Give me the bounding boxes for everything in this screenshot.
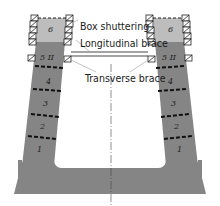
svg-text:4: 4 xyxy=(45,77,51,86)
svg-text:3: 3 xyxy=(171,99,176,108)
svg-text:5 II: 5 II xyxy=(40,53,55,62)
svg-text:5 II: 5 II xyxy=(162,53,177,62)
svg-text:6: 6 xyxy=(168,25,173,34)
label-longitudinal-brace: Longitudinal brace xyxy=(80,37,168,49)
label-transverse-brace: Transverse brace xyxy=(84,72,166,84)
svg-text:3: 3 xyxy=(43,99,48,108)
svg-text:6: 6 xyxy=(48,25,53,34)
svg-text:2: 2 xyxy=(39,122,45,131)
longitudinal-brace xyxy=(71,52,148,56)
svg-text:1: 1 xyxy=(37,145,42,154)
box-shuttering-diagram: Box shuttering Longitudinal brace Transv… xyxy=(0,0,220,206)
label-box-shuttering: Box shuttering xyxy=(80,20,149,32)
svg-text:1: 1 xyxy=(177,145,182,154)
svg-text:2: 2 xyxy=(173,122,179,131)
svg-text:4: 4 xyxy=(167,77,173,86)
